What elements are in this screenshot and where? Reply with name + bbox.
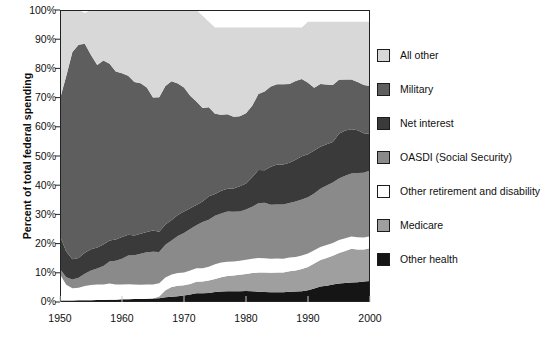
legend-label: Military xyxy=(400,83,433,95)
legend-item[interactable]: All other xyxy=(377,48,439,62)
legend-label: OASDI (Social Security) xyxy=(400,151,512,163)
legend-label: Other retirement and disability xyxy=(400,185,540,197)
legend-item[interactable]: Military xyxy=(377,82,433,96)
legend-swatch-icon xyxy=(377,151,390,164)
legend-label: Net interest xyxy=(400,117,454,129)
legend-label: All other xyxy=(400,49,439,61)
chart-figure: Percent of total federal spending 100% 9… xyxy=(0,0,548,338)
legend-item[interactable]: Other retirement and disability xyxy=(377,184,540,198)
legend-item[interactable]: Net interest xyxy=(377,116,454,130)
x-tick-1980: 1980 xyxy=(223,312,269,324)
x-tick-1960: 1960 xyxy=(99,312,145,324)
x-tick-1990: 1990 xyxy=(285,312,331,324)
legend-swatch-icon xyxy=(377,117,390,130)
legend-swatch-icon xyxy=(377,49,390,62)
chart-legend: All otherMilitaryNet interestOASDI (Soci… xyxy=(377,0,548,338)
legend-item[interactable]: Medicare xyxy=(377,218,443,232)
x-tick-1950: 1950 xyxy=(37,312,83,324)
legend-swatch-icon xyxy=(377,83,390,96)
legend-swatch-icon xyxy=(377,185,390,198)
legend-item[interactable]: OASDI (Social Security) xyxy=(377,150,512,164)
x-tick-1970: 1970 xyxy=(161,312,207,324)
legend-label: Medicare xyxy=(400,219,443,231)
legend-item[interactable]: Other health xyxy=(377,252,458,266)
legend-swatch-icon xyxy=(377,253,390,266)
legend-label: Other health xyxy=(400,253,458,265)
legend-swatch-icon xyxy=(377,219,390,232)
